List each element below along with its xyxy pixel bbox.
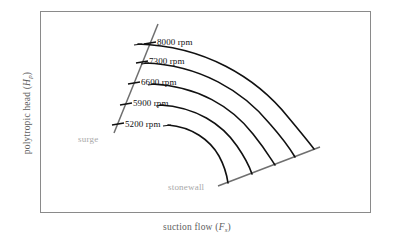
curve-label-5900: 5900 rpm — [133, 98, 169, 108]
curve-label-8000: 8000 rpm — [157, 37, 193, 47]
annotation-surge: surge — [78, 134, 98, 144]
chart-canvas — [0, 0, 394, 241]
curve-label-7300: 7300 rpm — [149, 56, 185, 66]
y-axis-symbol: H — [22, 79, 32, 86]
compressor-performance-chart: 5200 rpm 5900 rpm 6600 rpm 7300 rpm 8000… — [0, 0, 394, 241]
y-axis-title-text: polytropic head ( — [22, 86, 32, 154]
curve-label-6600: 6600 rpm — [141, 77, 177, 87]
annotation-stonewall: stonewall — [168, 182, 204, 192]
y-axis-title: polytropic head (Hp) — [22, 23, 34, 203]
plot-frame — [41, 12, 371, 213]
curve-label-5200: 5200 rpm — [125, 119, 161, 129]
x-axis-title-close: ) — [228, 222, 231, 232]
x-axis-title-text: suction flow ( — [163, 222, 219, 232]
y-axis-title-close: ) — [22, 72, 32, 75]
y-axis-subscript: p — [26, 75, 34, 79]
x-axis-title: suction flow (Fs) — [0, 222, 394, 234]
